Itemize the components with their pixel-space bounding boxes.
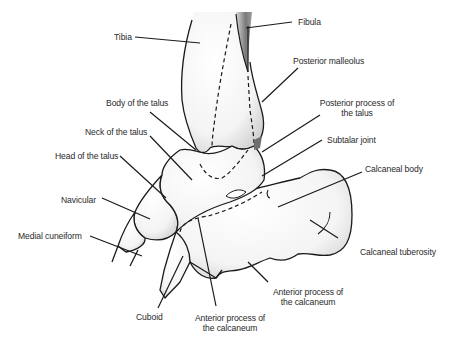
label-neck-of-talus: Neck of the talus [85, 127, 147, 137]
label-calcaneal-tuberosity: Calcaneal tuberosity [360, 247, 436, 257]
label-cuboid: Cuboid [136, 312, 163, 322]
label-anterior-process-calcaneum-bottom: Anterior process of the calcaneum [184, 313, 276, 333]
label-subtalar-joint: Subtalar joint [327, 135, 376, 145]
label-posterior-malleolus: Posterior malleolus [293, 56, 364, 66]
label-anterior-process-calcaneum-right: Anterior process of the calcaneum [262, 287, 354, 307]
label-tibia: Tibia [114, 32, 132, 42]
label-navicular: Navicular [61, 195, 96, 205]
ankle-anatomy-diagram: Tibia Fibula Posterior malleolus Body of… [0, 0, 461, 345]
label-medial-cuneiform: Medial cuneiform [18, 231, 82, 241]
label-posterior-process-talus: Posterior process of the talus [308, 98, 406, 118]
label-body-of-talus: Body of the talus [106, 98, 168, 108]
tibia [182, 12, 264, 153]
label-calcaneal-body: Calcaneal body [365, 164, 423, 174]
label-head-of-talus: Head of the talus [55, 151, 118, 161]
label-fibula: Fibula [298, 17, 321, 27]
